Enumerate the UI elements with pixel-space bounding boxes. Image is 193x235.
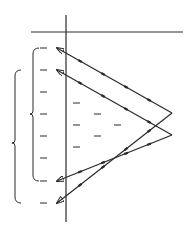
inner-bracket bbox=[30, 48, 39, 181]
direction-tick bbox=[101, 166, 104, 168]
direction-tick bbox=[124, 148, 127, 150]
direction-tick bbox=[101, 162, 105, 163]
direction-tick bbox=[147, 143, 151, 144]
direction-tick bbox=[124, 108, 127, 110]
outer-bracket bbox=[12, 70, 21, 203]
direction-tick bbox=[124, 86, 127, 88]
direction-tick bbox=[147, 130, 150, 132]
brackets bbox=[12, 48, 39, 203]
direction-tick bbox=[147, 121, 150, 123]
direction-tick bbox=[78, 171, 82, 172]
inner-path-lower-segment bbox=[57, 135, 172, 181]
direction-tick bbox=[124, 153, 128, 154]
direction-tick bbox=[78, 60, 81, 62]
axes bbox=[31, 15, 183, 222]
direction-tick bbox=[78, 184, 81, 186]
direction-tick bbox=[101, 95, 104, 97]
direction-tick bbox=[78, 82, 81, 84]
direction-tick bbox=[101, 73, 104, 75]
direction-tick bbox=[147, 99, 150, 101]
dash-marks bbox=[40, 48, 121, 203]
ray-diagram bbox=[0, 0, 193, 235]
